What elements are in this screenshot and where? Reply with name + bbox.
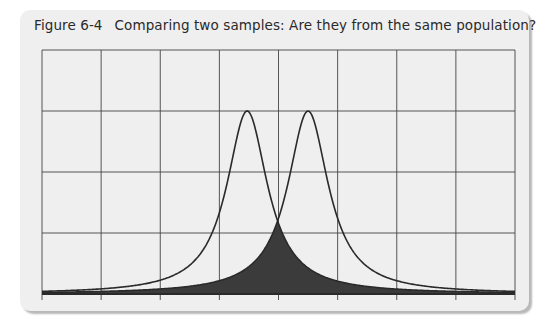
distribution-chart: [0, 0, 557, 331]
